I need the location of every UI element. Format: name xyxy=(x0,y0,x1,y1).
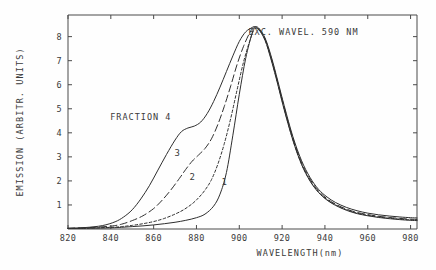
curve-label-1: 1 xyxy=(222,177,227,187)
x-axis-tick-labels: 820840860880900920940960980 xyxy=(60,233,419,243)
y-tick-label: 8 xyxy=(56,32,62,42)
y-axis-tick-labels: 12345678 xyxy=(56,32,62,210)
x-tick-label: 900 xyxy=(231,233,248,243)
figure-root: 820840860880900920940960980 12345678 123… xyxy=(0,0,436,270)
plot-frame xyxy=(68,15,417,229)
y-tick-label: 4 xyxy=(56,128,62,138)
spectrum-curves xyxy=(68,27,417,229)
curve-3 xyxy=(68,27,417,228)
x-tick-label: 840 xyxy=(103,233,120,243)
y-tick-label: 2 xyxy=(56,176,62,186)
y-tick-label: 3 xyxy=(56,152,62,162)
x-tick-label: 960 xyxy=(359,233,376,243)
x-axis-ticks xyxy=(68,15,411,229)
x-tick-label: 980 xyxy=(402,233,419,243)
curve-label-3: 3 xyxy=(174,148,179,158)
y-tick-label: 1 xyxy=(56,200,62,210)
curve-1 xyxy=(68,28,417,229)
x-tick-label: 940 xyxy=(317,233,334,243)
y-tick-label: 7 xyxy=(56,56,62,66)
y-tick-label: 6 xyxy=(56,80,62,90)
x-tick-label: 880 xyxy=(188,233,205,243)
plot-border xyxy=(68,15,417,229)
fraction-note: FRACTION 4 xyxy=(110,112,171,122)
x-tick-label: 860 xyxy=(145,233,162,243)
curve-label-2: 2 xyxy=(189,172,194,182)
curve-2 xyxy=(68,28,417,229)
chart-annotations: EXC. WAVEL. 590 NMFRACTION 4 xyxy=(110,27,358,121)
emission-spectrum-chart: 820840860880900920940960980 12345678 123… xyxy=(0,0,436,270)
y-tick-label: 5 xyxy=(56,104,62,114)
excitation-note: EXC. WAVEL. 590 NM xyxy=(248,27,358,37)
y-axis-title: EMISSION (ARBITR. UNITS) xyxy=(15,47,25,196)
x-axis-title: WAVELENGTH(nm) xyxy=(256,248,343,258)
curve-4 xyxy=(68,27,417,229)
x-tick-label: 920 xyxy=(274,233,291,243)
x-tick-label: 820 xyxy=(60,233,77,243)
